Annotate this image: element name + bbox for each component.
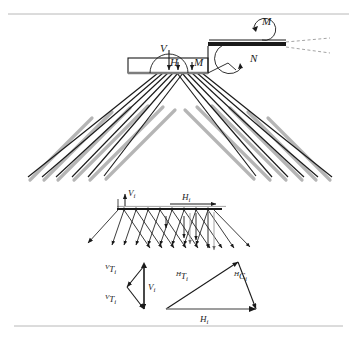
middle-outer-diagonals xyxy=(88,210,250,247)
hci-vector xyxy=(238,262,256,309)
label-vti-bottom: VTi xyxy=(105,293,116,306)
label-hi-base: Hi xyxy=(199,314,209,326)
middle-right-fan xyxy=(124,210,234,248)
middle-down-arrows xyxy=(166,212,208,248)
vti-lower-vector xyxy=(127,287,144,309)
vi-top-arrowhead xyxy=(141,262,147,268)
m-pylon-arrowhead xyxy=(252,26,258,32)
label-vti-top: VTi xyxy=(105,263,116,276)
vti-upper-vector xyxy=(127,266,144,287)
projection-dashed-lines xyxy=(286,38,330,53)
technical-figure: V H M N M xyxy=(0,0,357,338)
label-hci: HCi xyxy=(233,270,247,283)
beam-node-right xyxy=(282,42,286,46)
figure-page: V H M N M xyxy=(0,0,357,338)
label-hti: HTi xyxy=(175,270,188,283)
n-moment-arc xyxy=(215,44,242,74)
middle-incremental-diagram: Vi Hi xyxy=(88,188,250,250)
top-beam xyxy=(208,42,286,46)
label-hi: Hi xyxy=(181,192,191,204)
label-vi-vector: Vi xyxy=(148,282,156,294)
beam-node-left xyxy=(208,42,212,46)
label-v: V xyxy=(160,42,168,54)
main-stay-pattern: V H M N M xyxy=(28,15,332,180)
label-m-deck: M xyxy=(193,56,204,68)
right-force-triangle: HTi HCi Hi xyxy=(166,262,256,326)
label-vi: Vi xyxy=(128,188,136,200)
label-h: H xyxy=(169,56,179,68)
label-n: N xyxy=(249,52,258,64)
n-moment-arrowhead xyxy=(238,63,243,69)
bottom-force-triangles: VTi VTi Vi HTi HCi Hi xyxy=(105,262,256,326)
pylon-beam xyxy=(208,40,286,73)
left-force-triangle: VTi VTi Vi xyxy=(105,262,156,309)
label-m-pylon: M xyxy=(261,15,272,27)
